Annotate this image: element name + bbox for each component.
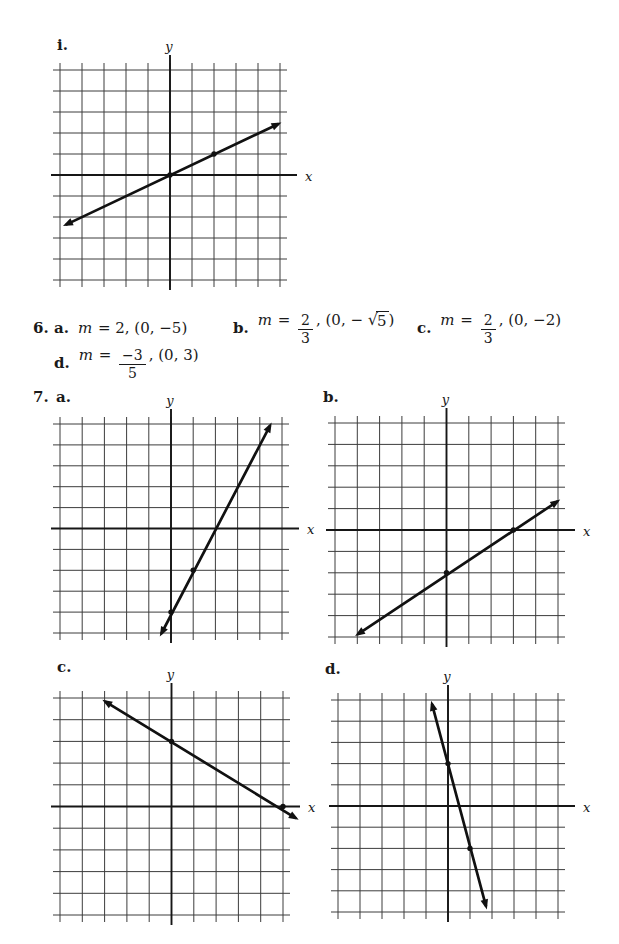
y-axis-label: y xyxy=(164,40,173,54)
graph-canvas: yx xyxy=(46,394,322,649)
x-axis-label: x xyxy=(583,524,591,539)
marked-point xyxy=(167,172,172,177)
part-b-label: b. xyxy=(233,319,249,337)
part-b-expression: m = 23, (0, − √5) xyxy=(257,311,395,345)
marked-point xyxy=(280,804,285,809)
marked-point xyxy=(444,570,449,575)
graph-7b: yx xyxy=(321,393,598,653)
problem-6-part-c: c. m = 23, (0, −2) xyxy=(417,306,561,350)
y-axis-label: y xyxy=(165,394,174,408)
x-axis-label: x xyxy=(308,800,316,815)
marked-point xyxy=(168,609,173,614)
problem-6-part-d: d. m = −35, (0, 3) xyxy=(54,341,199,385)
graph-canvas: yx xyxy=(46,668,323,931)
part-a-label: a. xyxy=(54,319,69,337)
marked-point xyxy=(511,527,516,532)
graph-canvas: yx xyxy=(324,670,598,928)
part-d-label: d. xyxy=(54,354,70,372)
graph-canvas: yx xyxy=(46,40,320,296)
x-axis-label: x xyxy=(307,522,315,537)
problem-6-number: 6. xyxy=(33,306,49,350)
x-axis-label: x xyxy=(583,800,591,815)
graph-7d: yx xyxy=(324,670,598,928)
marked-point xyxy=(445,761,450,766)
textbook-page: i. yx 6. a. m = 2, (0, −5) b. m = 23, (0… xyxy=(0,0,619,944)
y-axis-label: y xyxy=(442,670,451,684)
graph-7a: yx xyxy=(46,394,322,649)
x-axis-label: x xyxy=(305,169,313,184)
y-axis-label: y xyxy=(166,668,175,682)
marked-point xyxy=(211,151,216,156)
marked-point xyxy=(191,568,196,573)
part-d-expression: m = −35, (0, 3) xyxy=(78,346,199,380)
marked-point xyxy=(169,739,174,744)
graph-canvas: yx xyxy=(321,393,598,653)
part-c-expression: m = 23, (0, −2) xyxy=(439,311,561,345)
part-c-label: c. xyxy=(417,319,431,337)
graph-i: yx xyxy=(46,40,320,296)
part-a-expression: m = 2, (0, −5) xyxy=(77,319,187,337)
marked-point xyxy=(467,846,472,851)
problem-6-part-b: b. m = 23, (0, − √5) xyxy=(233,306,394,350)
graph-7c: yx xyxy=(46,668,323,931)
y-axis-label: y xyxy=(441,393,450,407)
